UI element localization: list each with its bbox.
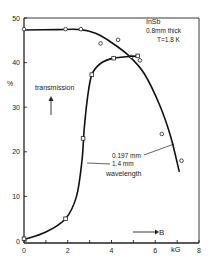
square-marker bbox=[90, 73, 94, 77]
transmission-label: transmission bbox=[35, 84, 74, 91]
y-tick-label: 10 bbox=[12, 193, 20, 200]
thickness-label: 0.8mm thick bbox=[146, 27, 182, 34]
square-marker bbox=[22, 237, 26, 241]
x-tick-label: 4 bbox=[110, 247, 114, 254]
circle-marker bbox=[138, 59, 142, 63]
square-marker bbox=[64, 217, 68, 221]
circle-marker bbox=[180, 159, 184, 163]
square-marker bbox=[81, 137, 85, 141]
circle-marker bbox=[22, 27, 26, 31]
annotations: InSb 0.8mm thick T=1.8 K % transmission … bbox=[7, 18, 182, 254]
x-unit-label: kG bbox=[171, 245, 181, 254]
circle-marker bbox=[116, 38, 120, 42]
wavelength-caption: wavelength bbox=[105, 170, 142, 178]
y-axis-label: % bbox=[7, 80, 13, 87]
arrow-up-icon bbox=[49, 96, 54, 101]
x-tick-label: 0 bbox=[22, 247, 26, 254]
circle-marker bbox=[160, 132, 164, 136]
y-tick-label: 30 bbox=[12, 104, 20, 111]
y-tick-label: 40 bbox=[12, 59, 20, 66]
series-0197mm bbox=[22, 27, 183, 172]
circle-marker bbox=[79, 27, 83, 31]
wavelength-1-label: 0.197 mm bbox=[112, 152, 141, 159]
temperature-label: T=1.8 K bbox=[157, 36, 181, 43]
square-marker bbox=[136, 54, 140, 58]
x-tick-label: 6 bbox=[153, 247, 157, 254]
wavelength-2-label: 1.4 mm bbox=[112, 160, 134, 167]
circle-marker bbox=[64, 27, 68, 31]
y-tick-label: 0 bbox=[16, 238, 20, 245]
square-marker bbox=[112, 56, 116, 60]
transmission-chart: 0246801020304050 InSb 0.8mm thick T=1.8 … bbox=[0, 0, 211, 269]
x-tick-label: 8 bbox=[197, 247, 201, 254]
data-series bbox=[22, 27, 183, 240]
leader-line-14 bbox=[87, 163, 110, 164]
circle-marker bbox=[99, 42, 103, 46]
b-field-label: B bbox=[159, 228, 164, 237]
sample-name-label: InSb bbox=[146, 18, 161, 25]
axes: 0246801020304050 bbox=[12, 15, 201, 255]
series-14mm bbox=[22, 54, 139, 240]
y-tick-label: 20 bbox=[12, 148, 20, 155]
leader-line-0197 bbox=[144, 144, 174, 155]
x-tick-label: 2 bbox=[66, 247, 70, 254]
y-tick-label: 50 bbox=[12, 15, 20, 22]
